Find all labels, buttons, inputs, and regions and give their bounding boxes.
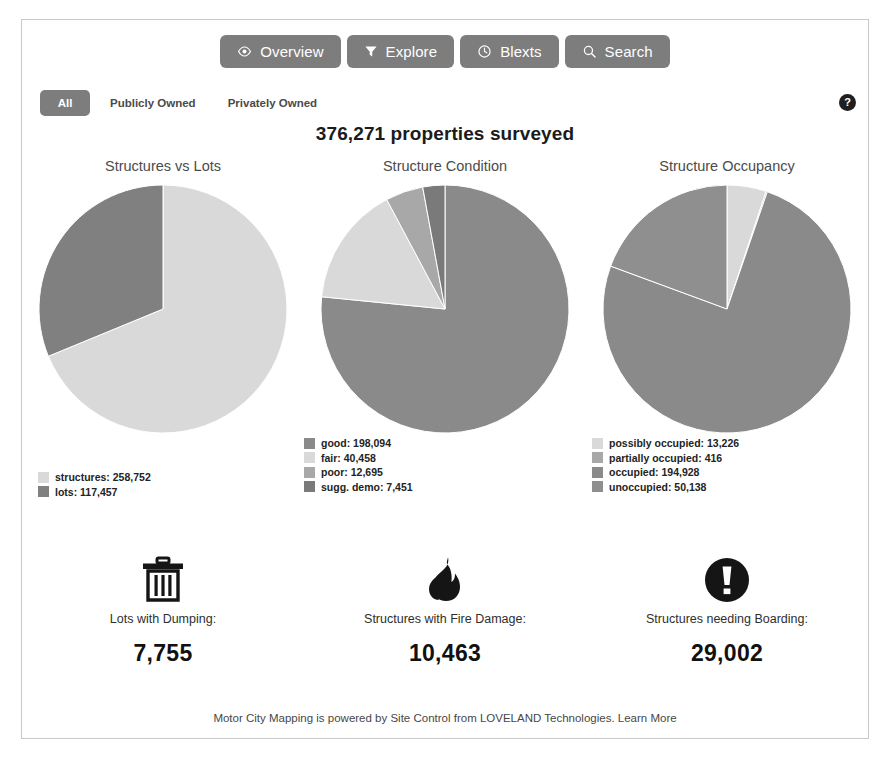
filter-publicly-owned[interactable]: Publicly Owned — [98, 90, 208, 116]
pie-wrap — [602, 184, 852, 434]
stat-structures-needing-boarding: Structures needing Boarding: 29,002 — [586, 554, 868, 667]
clock-icon — [477, 44, 492, 59]
footer-text: Motor City Mapping is powered by Site Co… — [213, 712, 614, 724]
stat-lots-with-dumping: Lots with Dumping: 7,755 — [22, 554, 304, 667]
main-toolbar: Overview Explore Blexts — [22, 35, 868, 68]
chart-title: Structure Occupancy — [659, 158, 794, 174]
pie-wrap — [34, 184, 292, 434]
learn-more-link[interactable]: Learn More — [618, 712, 677, 724]
pie-wrap — [320, 184, 570, 434]
legend-item: good: 198,094 — [304, 436, 413, 451]
legend-label-structures: structures: 258,752 — [55, 470, 151, 485]
chart-title: Structures vs Lots — [105, 158, 221, 174]
legend-swatch-sugg-demo — [304, 481, 315, 492]
legend-swatch-possibly-occupied — [592, 438, 603, 449]
page-title: 376,271 properties surveyed — [22, 123, 868, 145]
exclamation-circle-icon — [704, 554, 750, 606]
legend-item: poor: 12,695 — [304, 465, 413, 480]
stat-value: 29,002 — [691, 640, 763, 667]
chart-structures-vs-lots: Structures vs Lots structures: 258,752 l… — [22, 158, 304, 499]
legend-item: occupied: 194,928 — [592, 465, 739, 480]
stat-label: Structures with Fire Damage: — [364, 612, 526, 626]
eye-icon — [237, 44, 252, 59]
legend-label-lots: lots: 117,457 — [55, 485, 117, 500]
blexts-button[interactable]: Blexts — [460, 35, 558, 68]
legend-item: sugg. demo: 7,451 — [304, 480, 413, 495]
legend-label-unoccupied: unoccupied: 50,138 — [609, 480, 706, 495]
legend-label-sugg-demo: sugg. demo: 7,451 — [321, 480, 413, 495]
legend-structure-occupancy: possibly occupied: 13,226 partially occu… — [592, 436, 739, 494]
funnel-icon — [364, 44, 378, 59]
stats-row: Lots with Dumping: 7,755 Structures with… — [22, 554, 868, 667]
legend-swatch-fair — [304, 452, 315, 463]
legend-item: possibly occupied: 13,226 — [592, 436, 739, 451]
app-frame: Overview Explore Blexts — [21, 19, 869, 739]
legend-structure-condition: good: 198,094 fair: 40,458 poor: 12,695 … — [304, 436, 413, 494]
legend-swatch-partially-occupied — [592, 452, 603, 463]
stat-structures-with-fire-damage: Structures with Fire Damage: 10,463 — [304, 554, 586, 667]
stat-label: Lots with Dumping: — [110, 612, 216, 626]
legend-swatch-lots — [38, 486, 49, 497]
legend-item: unoccupied: 50,138 — [592, 480, 739, 495]
legend-label-possibly-occupied: possibly occupied: 13,226 — [609, 436, 739, 451]
filter-privately-owned[interactable]: Privately Owned — [216, 90, 329, 116]
legend-label-fair: fair: 40,458 — [321, 451, 376, 466]
legend-item: lots: 117,457 — [38, 485, 151, 500]
fire-icon — [423, 554, 467, 606]
stat-value: 7,755 — [133, 640, 192, 667]
legend-structures-vs-lots: structures: 258,752 lots: 117,457 — [38, 470, 151, 499]
trash-icon — [140, 554, 186, 606]
pie-chart-structures-vs-lots[interactable] — [34, 184, 292, 434]
overview-button[interactable]: Overview — [220, 35, 340, 68]
search-button-label: Search — [605, 43, 653, 60]
legend-swatch-structures — [38, 472, 49, 483]
legend-label-good: good: 198,094 — [321, 436, 391, 451]
stat-value: 10,463 — [409, 640, 481, 667]
legend-swatch-poor — [304, 467, 315, 478]
help-icon[interactable]: ? — [839, 94, 856, 111]
charts-row: Structures vs Lots structures: 258,752 l… — [22, 158, 868, 499]
legend-item: fair: 40,458 — [304, 451, 413, 466]
legend-label-partially-occupied: partially occupied: 416 — [609, 451, 722, 466]
pie-chart-structure-occupancy[interactable] — [602, 184, 852, 434]
chart-structure-condition: Structure Condition good: 198,094 fair: … — [304, 158, 586, 499]
footer: Motor City Mapping is powered by Site Co… — [22, 712, 868, 724]
legend-item: structures: 258,752 — [38, 470, 151, 485]
legend-label-occupied: occupied: 194,928 — [609, 465, 699, 480]
chart-structure-occupancy: Structure Occupancy possibly occupied: 1… — [586, 158, 868, 499]
legend-swatch-occupied — [592, 467, 603, 478]
legend-label-poor: poor: 12,695 — [321, 465, 383, 480]
search-button[interactable]: Search — [565, 35, 670, 68]
filter-all[interactable]: All — [40, 90, 90, 116]
explore-button[interactable]: Explore — [347, 35, 455, 68]
explore-button-label: Explore — [386, 43, 438, 60]
blexts-button-label: Blexts — [500, 43, 541, 60]
stat-label: Structures needing Boarding: — [646, 612, 808, 626]
ownership-filter-group: All Publicly Owned Privately Owned — [40, 90, 329, 116]
pie-chart-structure-condition[interactable] — [320, 184, 570, 434]
legend-swatch-unoccupied — [592, 481, 603, 492]
search-icon — [582, 44, 597, 59]
overview-button-label: Overview — [260, 43, 323, 60]
chart-title: Structure Condition — [383, 158, 507, 174]
legend-swatch-good — [304, 438, 315, 449]
legend-item: partially occupied: 416 — [592, 451, 739, 466]
